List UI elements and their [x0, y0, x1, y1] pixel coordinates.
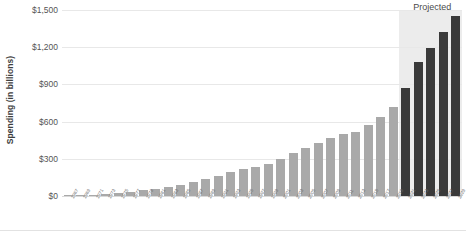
bar-2021[interactable]: [401, 88, 410, 196]
bar-2009[interactable]: [326, 138, 335, 196]
x-axis-tick-labels: 1967196919711973197519771979198119831985…: [62, 197, 462, 227]
bar-2011[interactable]: [339, 134, 348, 196]
bar-2019[interactable]: [389, 107, 398, 196]
y-tick-label-600: $600: [12, 117, 58, 127]
bar-2029[interactable]: [451, 16, 460, 196]
y-tick-label-1500: $1,500: [12, 5, 58, 15]
projected-annotation-label: Projected: [413, 2, 451, 12]
bar-2027[interactable]: [439, 32, 448, 196]
y-tick-label-300: $300: [12, 154, 58, 164]
plot-area: [62, 10, 462, 196]
y-axis-tick-labels: $0$300$600$900$1,200$1,500: [12, 0, 58, 233]
bar-chart: Spending (in billions) $0$300$600$900$1,…: [0, 0, 466, 233]
bars-layer: [62, 10, 462, 196]
bar-2007[interactable]: [314, 143, 323, 196]
bar-2025[interactable]: [426, 48, 435, 196]
bar-2017[interactable]: [376, 117, 385, 196]
y-tick-label-0: $0: [12, 191, 58, 201]
y-tick-label-900: $900: [12, 79, 58, 89]
bar-2015[interactable]: [364, 125, 373, 196]
bar-2013[interactable]: [351, 132, 360, 196]
bar-2023[interactable]: [414, 62, 423, 196]
y-tick-label-1200: $1,200: [12, 42, 58, 52]
bottom-divider: [0, 230, 466, 231]
